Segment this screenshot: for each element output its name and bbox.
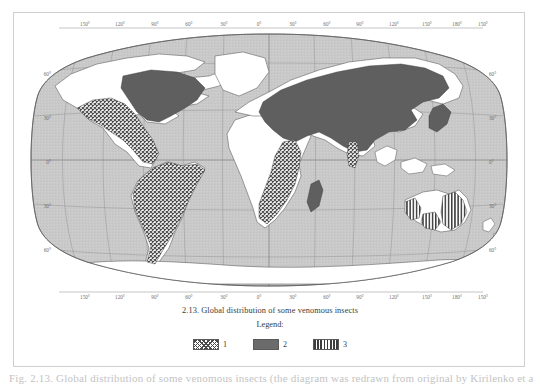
legend-item-1: 1	[193, 339, 227, 350]
graticule-tick-label: 90°	[356, 21, 363, 27]
graticule-tick-label: 180°	[452, 294, 462, 300]
graticule-tick-label: 120°	[115, 294, 125, 300]
graticule-tick-label: 150°	[478, 21, 488, 27]
graticule-tick-label: 0°	[489, 159, 494, 165]
graticule-tick-label: 150°	[422, 294, 432, 300]
graticule-tick-label: 30°	[220, 294, 227, 300]
legend-item-2: 2	[253, 339, 287, 350]
legend-item-3: 3	[313, 339, 347, 350]
graticule-tick-label: 120°	[115, 21, 125, 27]
graticule-tick-label: 120°	[389, 294, 399, 300]
legend-swatch-solid	[253, 339, 279, 350]
page-footer-cutoff: Fig. 2.13. Global distribution of some v…	[9, 372, 533, 387]
longitude-labels-bottom: 150°120°90°60°30°0°30°60°90°120°150°180°…	[80, 294, 488, 300]
graticule-tick-label: 0°	[257, 294, 262, 300]
world-map: 150°120°90°60°30°0°30°60°90°120°150°180°…	[19, 16, 519, 304]
page-root: 150°120°90°60°30°0°30°60°90°120°150°180°…	[0, 0, 540, 387]
map-svg: 150°120°90°60°30°0°30°60°90°120°150°180°…	[19, 16, 519, 304]
graticule-tick-label: 60°	[489, 71, 496, 77]
graticule-tick-label: 120°	[389, 21, 399, 27]
legend: 1 2 3	[14, 339, 526, 350]
graticule-tick-label: 90°	[151, 21, 158, 27]
graticule-tick-label: 60°	[44, 247, 51, 253]
graticule-tick-label: 30°	[489, 203, 496, 209]
graticule-tick-label: 30°	[489, 115, 496, 121]
graticule-tick-label: 60°	[44, 71, 51, 77]
legend-label-3: 3	[343, 340, 347, 350]
graticule-tick-label: 180°	[452, 21, 462, 27]
longitude-labels-top: 150°120°90°60°30°0°30°60°90°120°150°180°…	[80, 21, 488, 27]
figure-frame: 150°120°90°60°30°0°30°60°90°120°150°180°…	[13, 12, 525, 367]
graticule-tick-label: 150°	[80, 294, 90, 300]
graticule-tick-label: 60°	[323, 21, 330, 27]
graticule-tick-label: 150°	[80, 21, 90, 27]
legend-swatch-vertical-stripes	[313, 339, 339, 350]
legend-swatch-crosshatch	[193, 339, 219, 350]
graticule-tick-label: 60°	[323, 294, 330, 300]
footer-text: Fig. 2.13. Global distribution of some v…	[9, 372, 533, 385]
graticule-tick-label: 30°	[44, 115, 51, 121]
legend-title: Legend:	[14, 319, 526, 330]
caption-block: 2.13. Global distribution of some venomo…	[14, 305, 526, 350]
graticule-tick-label: 90°	[356, 294, 363, 300]
legend-label-2: 2	[283, 340, 287, 350]
graticule-tick-label: 60°	[185, 21, 192, 27]
graticule-tick-label: 150°	[422, 21, 432, 27]
graticule-tick-label: 60°	[185, 294, 192, 300]
graticule-tick-label: 60°	[489, 247, 496, 253]
graticule-tick-label: 30°	[289, 21, 296, 27]
legend-label-1: 1	[223, 340, 227, 350]
figure-caption: 2.13. Global distribution of some venomo…	[14, 305, 526, 316]
graticule-tick-label: 30°	[220, 21, 227, 27]
graticule-tick-label: 90°	[151, 294, 158, 300]
graticule-tick-label: 0°	[257, 21, 262, 27]
graticule-tick-label: 30°	[44, 203, 51, 209]
graticule-tick-label: 30°	[289, 294, 296, 300]
graticule-tick-label: 150°	[478, 294, 488, 300]
graticule-tick-label: 0°	[46, 159, 51, 165]
